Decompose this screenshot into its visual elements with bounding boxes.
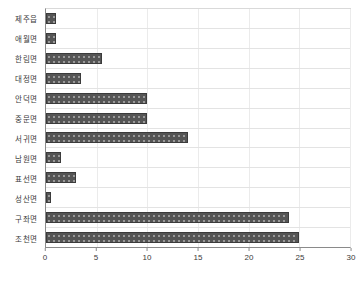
bar (46, 172, 76, 183)
bar (46, 53, 102, 64)
bar-row (46, 29, 350, 49)
gridline-vertical (350, 9, 351, 247)
category-label-text: 한림면 (15, 53, 37, 64)
value-axis-tick-label: 0 (43, 253, 47, 262)
category-axis-labels: 제주읍애월면한림면대정면안덕면중문면서귀면남원면표선면성산면구좌면조천면 (0, 8, 41, 248)
category-label-text: 조천면 (15, 233, 37, 244)
category-label-text: 대정면 (15, 73, 37, 84)
category-label: 남원면 (0, 148, 41, 168)
bar-row (46, 208, 350, 228)
category-label: 안덕면 (0, 88, 41, 108)
tick-mark (249, 248, 250, 251)
category-label-text: 표선면 (15, 173, 37, 184)
category-label-text: 애월면 (15, 33, 37, 44)
bar-row (46, 129, 350, 149)
bar-row (46, 9, 350, 29)
bar-row (46, 188, 350, 208)
bar-row (46, 148, 350, 168)
category-label-text: 구좌면 (15, 213, 37, 224)
tick-mark (300, 248, 301, 251)
bar-row (46, 89, 350, 109)
category-label-text: 안덕면 (15, 93, 37, 104)
value-axis-tick: 5 (94, 248, 98, 262)
category-label: 성산면 (0, 188, 41, 208)
bar (46, 33, 56, 44)
category-label: 구좌면 (0, 208, 41, 228)
category-label: 표선면 (0, 168, 41, 188)
bar (46, 73, 81, 84)
category-label-text: 제주읍 (15, 13, 37, 24)
value-axis-tick-label: 25 (296, 253, 305, 262)
bar (46, 13, 56, 24)
value-axis-tick-label: 20 (245, 253, 254, 262)
category-label: 애월면 (0, 28, 41, 48)
category-label: 서귀면 (0, 128, 41, 148)
category-label-text: 성산면 (15, 193, 37, 204)
bar-row (46, 168, 350, 188)
value-axis-tick-label: 15 (194, 253, 203, 262)
category-label: 한림면 (0, 48, 41, 68)
value-axis-tick-label: 5 (94, 253, 98, 262)
tick-mark (351, 248, 352, 251)
bar-row (46, 49, 350, 69)
value-axis-tick: 10 (143, 248, 152, 262)
bar-chart: 제주읍애월면한림면대정면안덕면중문면서귀면남원면표선면성산면구좌면조천면 051… (0, 0, 359, 282)
value-axis-tick-label: 10 (143, 253, 152, 262)
category-label-text: 서귀면 (15, 133, 37, 144)
bar (46, 192, 51, 203)
bar (46, 93, 147, 104)
bar (46, 132, 188, 143)
value-axis-tick: 25 (296, 248, 305, 262)
category-label: 조천면 (0, 228, 41, 248)
category-label: 중문면 (0, 108, 41, 128)
bar-row (46, 69, 350, 89)
bar (46, 113, 147, 124)
bar (46, 152, 61, 163)
tick-mark (95, 248, 96, 251)
bar (46, 232, 299, 243)
bar-rows (46, 9, 350, 247)
value-axis-tick: 30 (347, 248, 356, 262)
category-label-text: 남원면 (15, 153, 37, 164)
bar (46, 212, 289, 223)
value-axis-ticks: 051015202530 (45, 248, 351, 266)
category-label: 제주읍 (0, 8, 41, 28)
category-label-text: 중문면 (15, 113, 37, 124)
tick-mark (44, 248, 45, 251)
bar-row (46, 228, 350, 247)
plot-area (45, 8, 351, 248)
value-axis-tick-label: 30 (347, 253, 356, 262)
category-label: 대정면 (0, 68, 41, 88)
value-axis-tick: 0 (43, 248, 47, 262)
value-axis-tick: 15 (194, 248, 203, 262)
tick-mark (198, 248, 199, 251)
value-axis-tick: 20 (245, 248, 254, 262)
bar-row (46, 109, 350, 129)
tick-mark (147, 248, 148, 251)
